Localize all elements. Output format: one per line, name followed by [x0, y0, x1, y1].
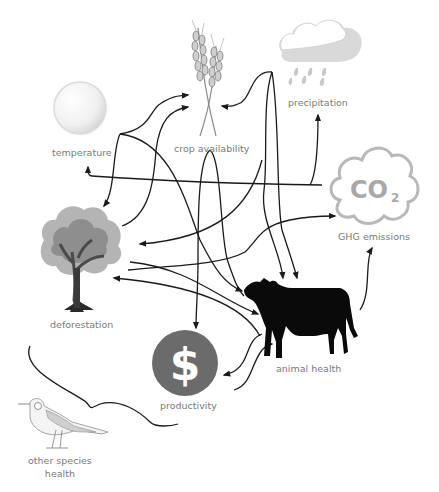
arrow-ghg-to-temperature — [88, 167, 322, 185]
arrow-crop-to-productivity-loop — [210, 150, 244, 296]
wheat-icon — [186, 20, 230, 138]
label-other-species-line1: other species — [28, 454, 92, 467]
sun-icon — [48, 76, 112, 140]
arrow-crop-to-productivity — [196, 150, 210, 328]
dollar-coin-icon: $ — [152, 330, 218, 396]
label-precipitation: precipitation — [288, 96, 348, 109]
arrow-crop-to-deforestation — [140, 160, 262, 244]
arrow-deforestation-to-crop — [122, 107, 188, 226]
co2-cloud-icon: CO 2 — [324, 142, 422, 228]
dollar-glyph: $ — [170, 339, 201, 390]
diagram-canvas: temperature crop av — [0, 0, 439, 492]
rain-cloud-icon — [276, 16, 366, 96]
arrow-temperature-to-crop — [120, 95, 188, 134]
arrow-ghg-to-precipitation — [310, 115, 318, 185]
label-temperature: temperature — [52, 146, 112, 159]
label-deforestation: deforestation — [50, 318, 113, 331]
label-productivity: productivity — [160, 399, 217, 412]
label-ghg-emissions: GHG emissions — [338, 230, 410, 243]
arrow-deforestation-to-ghg — [128, 216, 335, 270]
arrow-temperature-to-animal — [120, 134, 242, 291]
co2-subscript: 2 — [391, 191, 399, 205]
label-animal-health: animal health — [276, 362, 341, 375]
cow-icon — [242, 274, 362, 360]
arrow-temperature-to-deforestation — [104, 134, 120, 206]
label-other-species-health: other species health — [28, 454, 92, 480]
label-crop-availability: crop availability — [174, 142, 249, 155]
bird-icon — [16, 396, 112, 452]
co2-text: CO — [350, 176, 388, 204]
arrow-precipitation-to-animal-1 — [263, 72, 283, 278]
tree-icon — [34, 200, 126, 312]
label-other-species-line2: health — [28, 467, 92, 480]
